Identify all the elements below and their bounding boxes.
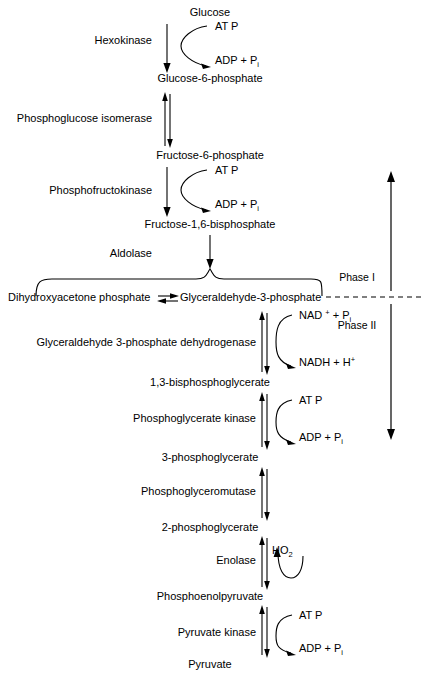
arrow-g6p-to-f6p	[162, 92, 173, 148]
phase-labels: Phase IPhase II	[338, 271, 377, 331]
arrow-bpg-to-3pg	[259, 392, 270, 450]
phase-2-arrow	[387, 304, 395, 440]
cofactor-nadh: NADH + H+	[299, 355, 356, 368]
metabolite-pep: Phosphoenolpyruvate	[157, 590, 263, 602]
phase-indicator-arrows	[387, 171, 395, 440]
cofactor-adp-3: ADP + Pi	[299, 431, 343, 446]
cofactor-adp-2: ADP + Pi	[215, 198, 259, 213]
metabolite-g6p: Glucose-6-phosphate	[157, 72, 262, 84]
arrow-glucose-to-g6p	[163, 24, 170, 73]
enzyme-enolase: Enolase	[216, 554, 256, 566]
enzyme-gapdh: Glyceraldehyde 3-phosphate dehydrogenase	[36, 336, 256, 348]
enzyme-pyruvate-kinase: Pyruvate kinase	[178, 626, 256, 638]
phase-label-phase-2: Phase II	[338, 319, 377, 331]
enzyme-pgi: Phosphoglucose isomerase	[17, 112, 152, 124]
metabolite-bpg: 1,3-bisphosphoglycerate	[150, 376, 270, 388]
arrow-dhap-g3p	[157, 293, 179, 304]
cofactor-atp-3: AT P	[299, 394, 322, 406]
metabolite-dhap: Dihydroxyacetone phosphate	[8, 291, 150, 303]
arrow-f6p-to-fbp	[163, 167, 170, 217]
cofactor-atp-1: AT P	[215, 20, 238, 32]
enzyme-aldolase: Aldolase	[110, 247, 152, 259]
arc-pyruvate-kinase	[276, 615, 292, 653]
metabolite-pyruvate: Pyruvate	[188, 658, 231, 670]
enzyme-pgm: Phosphoglyceromutase	[141, 485, 256, 497]
phase-label-phase-1: Phase I	[339, 271, 375, 283]
enzyme-pfk: Phosphofructokinase	[49, 184, 152, 196]
metabolite-fbp: Fructose-1,6-bisphosphate	[145, 218, 276, 230]
enzyme-hexokinase: Hexokinase	[95, 34, 152, 46]
arrow-pep-to-pyruvate	[259, 605, 270, 658]
cofactor-adp-4: ADP + Pi	[299, 642, 343, 657]
phase-1-arrow	[387, 171, 395, 291]
arc-gapdh	[276, 315, 292, 366]
glycolysis-diagram: GlucoseGlucose-6-phosphateFructose-6-pho…	[0, 0, 423, 675]
cofactor-adp-1: ADP + Pi	[215, 54, 259, 69]
metabolite-g3p: Glyceraldehyde-3-phosphate	[180, 291, 321, 303]
arc-pfk	[181, 170, 207, 210]
arc-pgk	[276, 400, 292, 442]
enzyme-pgk: Phosphoglycerate kinase	[133, 412, 256, 424]
cofactor-atp-4: AT P	[299, 609, 322, 621]
arrow-3pg-to-2pg	[259, 467, 270, 521]
arrow-2pg-to-pep	[259, 536, 270, 590]
arc-hexokinase	[181, 26, 207, 66]
metabolite-glucose: Glucose	[190, 6, 230, 18]
metabolite-f6p: Fructose-6-phosphate	[156, 149, 264, 161]
metabolite-pg3: 3-phosphoglycerate	[162, 451, 259, 463]
arrow-fbp-to-brace	[206, 235, 213, 269]
cofactor-atp-2: AT P	[215, 164, 238, 176]
metabolite-pg2: 2-phosphoglycerate	[162, 521, 259, 533]
enzyme-labels: HexokinasePhosphoglucose isomerasePhosph…	[17, 34, 256, 638]
arrow-g3p-to-bpg	[259, 311, 270, 375]
